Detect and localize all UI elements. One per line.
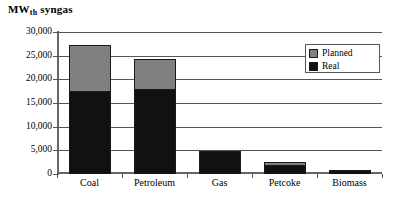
chart-title-subscript: th [30, 8, 38, 17]
y-axis-tick-labels: 05,00010,00015,00020,00025,00030,000 [0, 32, 52, 174]
bar-segment-real [134, 89, 176, 174]
gridline [57, 32, 382, 33]
y-axis-tick [53, 127, 58, 128]
chart-title: MWth syngas [8, 3, 73, 15]
y-axis-tick-label: 15,000 [26, 98, 52, 108]
legend-label-planned: Planned [322, 48, 353, 58]
chart-container: MWth syngas 05,00010,00015,00020,00025,0… [0, 0, 401, 205]
y-axis-tick [53, 103, 58, 104]
bar-petcoke [264, 162, 306, 174]
bar-segment-real [329, 170, 371, 174]
bar-coal [69, 45, 111, 174]
y-axis-tick-label: 25,000 [26, 51, 52, 61]
x-axis-label-petcoke: Petcoke [252, 177, 317, 189]
y-axis-tick-label: 20,000 [26, 74, 52, 84]
bar-segment-real [199, 151, 241, 174]
y-axis-tick [53, 150, 58, 151]
legend-item-real: Real [309, 60, 379, 72]
y-axis-tick [53, 32, 58, 33]
bar-segment-real [264, 165, 306, 174]
y-axis-tick-label: 10,000 [26, 122, 52, 132]
bar-gas [199, 151, 241, 174]
legend-swatch-real-icon [309, 62, 318, 71]
x-axis-label-biomass: Biomass [317, 177, 382, 189]
bar-segment-planned [69, 45, 111, 91]
bar-biomass [329, 170, 371, 174]
chart-title-tail: syngas [37, 3, 72, 15]
chart-title-main: MW [8, 3, 30, 15]
x-axis-tick [382, 174, 383, 178]
x-axis-label-petroleum: Petroleum [122, 177, 187, 189]
x-axis-label-gas: Gas [187, 177, 252, 189]
bar-segment-planned [134, 59, 176, 88]
y-axis-tick-label: 30,000 [26, 27, 52, 37]
y-axis-tick [53, 56, 58, 57]
y-axis-tick-label: 0 [47, 169, 52, 179]
chart-legend: Planned Real [305, 44, 380, 73]
legend-swatch-planned-icon [309, 49, 318, 58]
y-axis-tick [53, 79, 58, 80]
bar-segment-real [69, 91, 111, 174]
legend-item-planned: Planned [309, 47, 379, 59]
x-axis-tick-labels: CoalPetroleumGasPetcokeBiomass [57, 177, 382, 197]
y-axis-tick-label: 5,000 [31, 145, 52, 155]
bar-petroleum [134, 59, 176, 174]
x-axis-label-coal: Coal [57, 177, 122, 189]
legend-label-real: Real [322, 61, 339, 71]
